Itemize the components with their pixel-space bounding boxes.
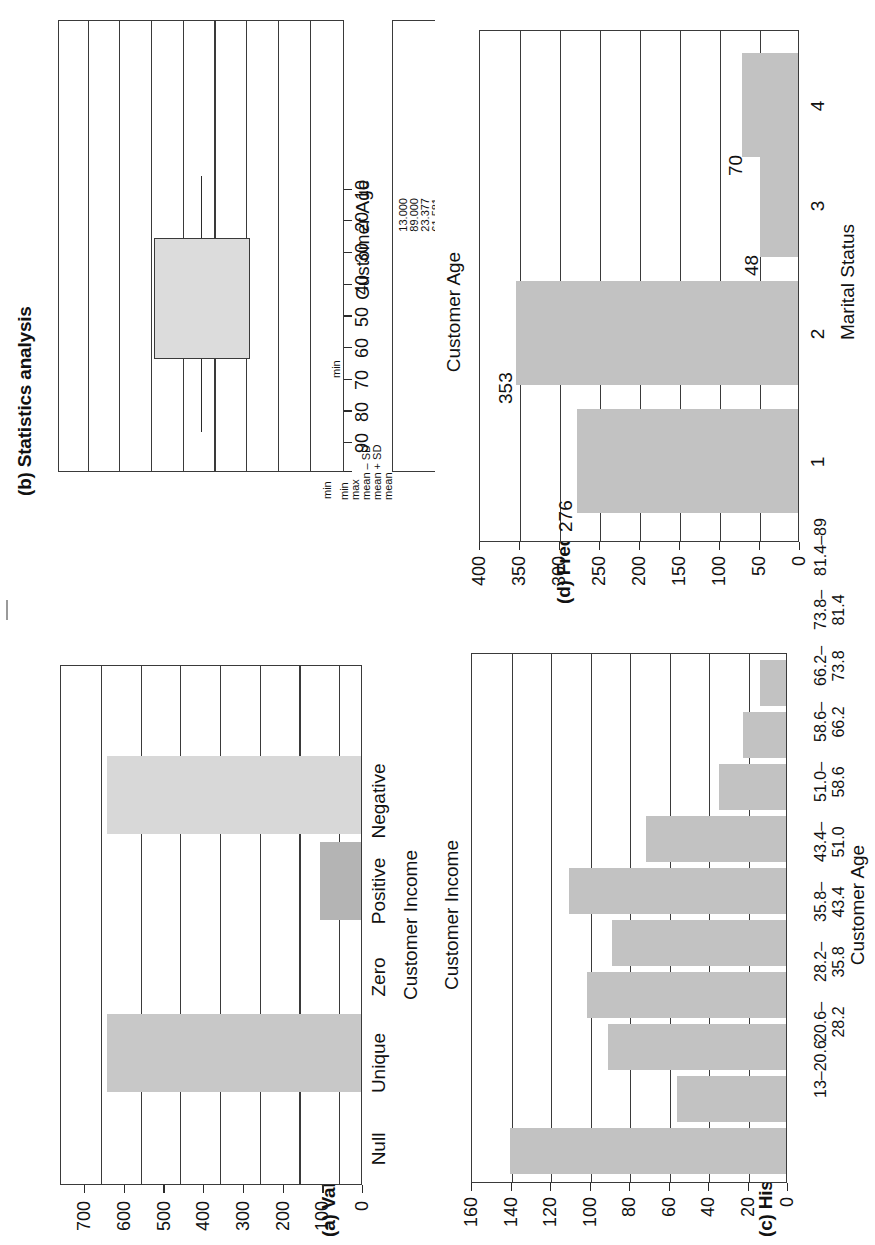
bar-label-70: 70	[725, 155, 747, 176]
hist-bin-9: 73.8– 81.4	[812, 590, 848, 630]
bar-label-276: 276	[555, 500, 577, 532]
stat-label-1: min	[320, 480, 333, 500]
panel-d-ytick-7: 350	[509, 556, 530, 586]
panel-statistics-analysis: (b) Statistics analysis	[0, 0, 440, 600]
panel-b-plot-area	[58, 20, 344, 472]
panel-c-xlabel: Customer Age	[847, 845, 869, 965]
bar-marital-2	[516, 281, 798, 385]
panel-c-ytick-1: 20	[738, 1197, 759, 1217]
figure-page: (b) Statistics analysis	[0, 0, 875, 1245]
hist-bar-9	[743, 712, 787, 758]
panel-a-ytick-6: 600	[114, 1201, 135, 1231]
panel-d-ytick-3: 150	[669, 556, 690, 586]
bar-unique	[107, 1014, 361, 1092]
panel-a-cat-unique: Unique	[368, 1033, 390, 1093]
panel-d-ytick-5: 250	[589, 556, 610, 586]
panel-c-ytick-7: 140	[501, 1197, 522, 1227]
panel-c-ylabel-top: Customer Income	[441, 840, 463, 990]
panel-a-cat-positive: Positive	[368, 858, 390, 925]
panel-c-ytick-6: 120	[540, 1197, 561, 1227]
bar-marital-3	[760, 153, 798, 257]
panel-b-ytick-7: 80	[352, 402, 373, 422]
panel-c-plot-area	[471, 653, 787, 1183]
hist-bin-10: 81.4–89	[812, 518, 830, 576]
panel-values-analysis: (a) Values analysis	[0, 620, 440, 1245]
panel-b-title: (b) Statistics analysis	[14, 306, 36, 496]
panel-a-cat-null: Null	[368, 1133, 390, 1166]
bar-label-353: 353	[495, 372, 517, 404]
panel-b-ytick-4: 50	[352, 307, 373, 327]
panel-c-ytick-3: 60	[659, 1197, 680, 1217]
hist-bin-7: 58.6– 66.2	[812, 702, 848, 742]
panel-c-ytick-4: 80	[619, 1197, 640, 1217]
hist-bin-1: 13–20.6	[812, 1040, 830, 1098]
panel-a-ytick-5: 500	[154, 1201, 175, 1231]
panel-c-ytick-0: 0	[777, 1197, 798, 1207]
panel-a-cat-zero: Zero	[368, 957, 390, 996]
hist-bar-3	[608, 1024, 786, 1070]
bar-marital-4	[742, 53, 798, 157]
boxplot-box	[154, 238, 250, 359]
hist-bar-10	[760, 660, 786, 706]
bar-negative	[107, 756, 361, 834]
panel-d-ytick-4: 200	[629, 556, 650, 586]
hist-bar-6	[569, 868, 786, 914]
panel-b-xlabel: Customer Age	[352, 180, 373, 300]
panel-a-ytick-1: 100	[312, 1201, 333, 1231]
panel-a-ytick-4: 400	[193, 1201, 214, 1231]
panel-c-ytick-5: 100	[580, 1197, 601, 1227]
panel-d-ytick-1: 50	[749, 556, 770, 576]
hist-bin-4: 35.8– 43.4	[812, 882, 848, 922]
panel-a-cat-negative: Negative	[368, 764, 390, 839]
panel-c-ytick-2: 40	[698, 1197, 719, 1217]
panel-a-xlabel: Customer Income	[400, 850, 422, 1000]
stat-label-min: min	[330, 360, 342, 378]
hist-bin-3: 28.2– 35.8	[812, 942, 848, 982]
hist-bar-4	[587, 972, 787, 1018]
hist-bin-6: 51.0– 58.6	[812, 762, 848, 802]
panel-d-ytick-0: 0	[789, 556, 810, 566]
hist-bar-1	[510, 1128, 787, 1174]
hist-bin-2: 20.6– 28.2	[812, 1002, 848, 1042]
panel-d-cat-2: 2	[807, 329, 829, 340]
panel-d-ytick-6: 300	[549, 556, 570, 586]
hist-bin-5: 43.4– 51.0	[812, 822, 848, 862]
panel-a-plot-area	[60, 665, 362, 1185]
panel-d-ylabel-top: Customer Age	[443, 252, 465, 372]
panel-a-ytick-2: 200	[273, 1201, 294, 1231]
bar-marital-1	[577, 409, 798, 513]
panel-frequency-analysis: (d) Frequency analysis Customer Age 276 …	[435, 0, 875, 612]
panel-a-ytick-7: 700	[74, 1201, 95, 1231]
hist-bin-8: 66.2– 73.8	[812, 646, 848, 686]
panel-d-ytick-8: 400	[469, 556, 490, 586]
panel-d-cat-4: 4	[807, 101, 829, 112]
panel-histogram: (c) Histogram Customer Income	[435, 620, 875, 1245]
hist-bar-7	[646, 816, 786, 862]
panel-d-cat-3: 3	[807, 201, 829, 212]
panel-d-xlabel: Marital Status	[837, 224, 859, 340]
hist-bar-8	[719, 764, 786, 810]
bar-label-48: 48	[741, 255, 763, 276]
hist-bar-2	[677, 1076, 786, 1122]
panel-d-ytick-2: 100	[709, 556, 730, 586]
bar-positive	[320, 842, 361, 920]
panel-b-ytick-6: 70	[352, 370, 373, 390]
panel-b-ytick-5: 60	[352, 338, 373, 358]
hist-bar-5	[612, 920, 786, 966]
panel-a-ytick-0: 0	[352, 1201, 373, 1211]
panel-d-cat-1: 1	[807, 457, 829, 468]
panel-a-ytick-3: 300	[233, 1201, 254, 1231]
panel-c-ytick-8: 160	[461, 1197, 482, 1227]
stat-row-mean: mean	[382, 472, 394, 500]
panel-b-stat-table	[392, 20, 436, 472]
panel-d-plot-area	[479, 30, 799, 542]
